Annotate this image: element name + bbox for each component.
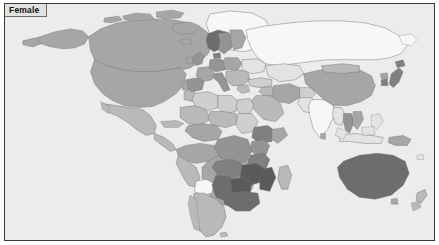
region-denmark	[213, 53, 221, 59]
region-mongolia	[322, 64, 360, 74]
region-poland	[223, 58, 242, 70]
map-panel: Female .c{stroke:#6e6e6e;stroke-width:0.…	[4, 3, 435, 241]
region-pacific-islands	[417, 154, 424, 159]
region-sri-lanka	[321, 133, 326, 139]
region-bolivia	[194, 179, 214, 195]
panel-label: Female	[5, 4, 47, 17]
region-north-korea	[380, 73, 388, 79]
region-south-korea	[381, 79, 388, 86]
region-libya	[218, 96, 238, 114]
region-egypt	[236, 99, 254, 114]
world-choropleth-map: .c{stroke:#6e6e6e;stroke-width:0.45;stro…	[5, 4, 434, 240]
region-iceland	[180, 39, 192, 45]
region-borneo	[361, 126, 375, 135]
region-tasmania	[391, 198, 398, 204]
world-map-figure: Female .c{stroke:#6e6e6e;stroke-width:0.…	[0, 0, 439, 245]
region-turkey	[248, 78, 272, 88]
region-portugal	[182, 81, 188, 91]
region-ireland	[186, 57, 193, 64]
